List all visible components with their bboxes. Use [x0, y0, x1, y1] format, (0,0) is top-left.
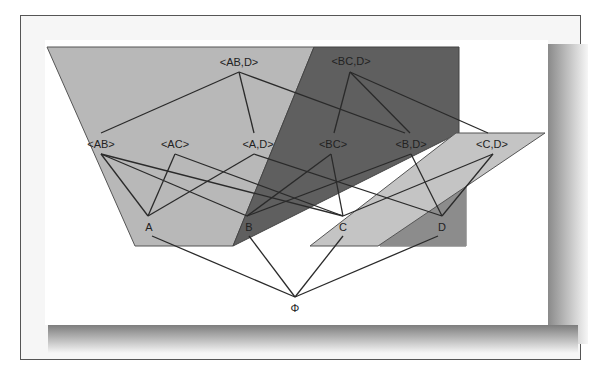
node-bc: <BC>: [319, 138, 347, 150]
node-ac: <AC>: [161, 138, 189, 150]
node-ab-d: <AB,D>: [220, 56, 259, 68]
node-a: A: [145, 221, 153, 233]
node-phi: Φ: [291, 302, 300, 314]
node-c-d: <C,D>: [476, 138, 508, 150]
node-ab: <AB>: [87, 138, 115, 150]
node-b: B: [245, 221, 252, 233]
node-d: D: [438, 221, 446, 233]
node-c: C: [339, 221, 347, 233]
node-bc-d: <BC,D>: [331, 55, 370, 67]
node-a-d: <A,D>: [242, 138, 273, 150]
lattice-diagram: <AB,D> <BC,D> <AB> <AC> <A,D> <BC> <B,D>…: [0, 0, 601, 371]
node-b-d: <B,D>: [395, 138, 426, 150]
